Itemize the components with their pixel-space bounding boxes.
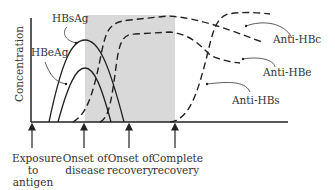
anti-hbe-label: Anti-HBe — [263, 66, 312, 78]
anti-hbs-label: Anti-HBs — [232, 94, 280, 106]
hbsag-leader — [64, 27, 76, 43]
timeline-onset-disease: Onset of disease — [62, 152, 108, 176]
anti-hbs-leader — [207, 82, 250, 92]
timeline-exposure: Exposure to antigen — [12, 152, 54, 188]
timeline-complete-recovery: Complete recovery — [152, 152, 200, 176]
anti-hbc-label: Anti-HBc — [273, 33, 321, 45]
y-axis-label: Concentration — [13, 26, 25, 102]
timeline-onset-recovery: Onset of recovery — [107, 152, 153, 176]
hbeag-leader — [45, 62, 66, 84]
hbeag-label: HBeAg — [31, 46, 68, 58]
timeline-arrows — [29, 124, 178, 148]
hbsag-label: HBsAg — [52, 12, 89, 24]
